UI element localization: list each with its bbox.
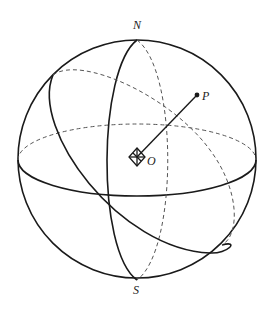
- label-point: P: [201, 89, 210, 103]
- label-north: N: [132, 18, 142, 32]
- sphere-diagram: N S O P: [0, 0, 270, 311]
- radius-line-op: [137, 95, 197, 157]
- label-center: O: [147, 154, 156, 168]
- label-south: S: [133, 283, 139, 297]
- point-p-dot: [195, 93, 200, 98]
